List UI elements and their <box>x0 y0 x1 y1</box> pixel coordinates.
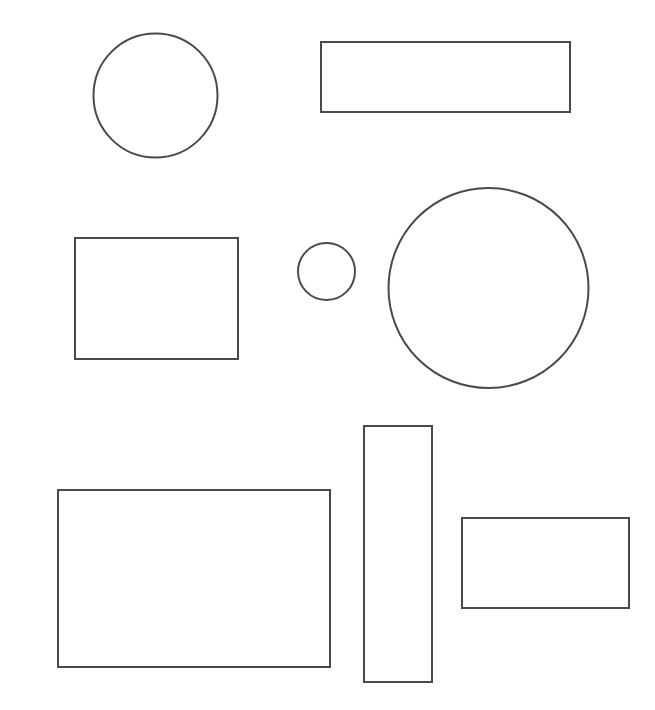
canvas-background <box>0 0 655 710</box>
shapes-svg <box>0 0 655 710</box>
shape-diagram-canvas <box>0 0 655 710</box>
